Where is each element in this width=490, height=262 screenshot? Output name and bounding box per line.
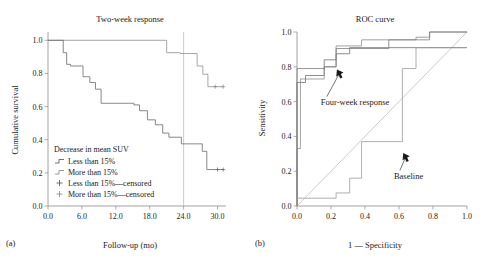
legend-item: Less than 15%—censored <box>57 179 152 188</box>
x-tick-label: 18.0 <box>143 212 157 221</box>
x-tick-label: 12.0 <box>109 212 123 221</box>
legend-item-label: Less than 15%—censored <box>68 179 152 188</box>
legend-step-marker <box>55 160 64 164</box>
annotation-label: Four-week response <box>321 97 390 107</box>
panel-b-plot-area: 0.00.20.40.60.81.00.00.20.40.60.81.0 <box>282 28 473 221</box>
panel-a-title: Two-week response <box>96 14 164 24</box>
x-tick-label: 0.8 <box>428 212 438 221</box>
legend-item-label: Less than 15% <box>68 157 115 166</box>
y-tick-label: 0.8 <box>282 63 292 72</box>
diagonal-reference-line <box>297 32 467 206</box>
y-tick-label: 0.6 <box>282 98 292 107</box>
legend-item: Less than 15% <box>55 157 115 166</box>
panel-b-xlabel: 1 — Specificity <box>348 240 403 250</box>
y-tick-label: 0.6 <box>33 103 43 112</box>
y-tick-label: 0.4 <box>33 136 43 145</box>
x-tick-label: 0.6 <box>394 212 404 221</box>
x-tick-label: 0.2 <box>326 212 336 221</box>
x-tick-label: 0.0 <box>292 212 302 221</box>
legend-item-label: More than 15% <box>68 168 118 177</box>
panel-b-roc-chart: ROC curve 0.00.20.40.60.81.00.00.20.40.6… <box>245 0 490 262</box>
y-tick-label: 1.0 <box>33 36 43 45</box>
panel-b-ylabel: Sensitivity <box>257 99 267 136</box>
annotation-leader-line <box>400 158 405 171</box>
annotation-arrowhead <box>403 153 410 162</box>
y-tick-label: 0.0 <box>282 202 292 211</box>
panel-a-ylabel: Cumulative survival <box>10 85 20 155</box>
annotation-label: Baseline <box>394 171 423 181</box>
x-tick-label: 0.0 <box>43 212 53 221</box>
roc-svg: ROC curve 0.00.20.40.60.81.00.00.20.40.6… <box>245 0 490 262</box>
x-tick-label: 24.0 <box>177 212 191 221</box>
y-tick-label: 0.2 <box>282 167 292 176</box>
panel-a-legend: Decrease in mean SUVLess than 15%More th… <box>54 145 154 199</box>
x-tick-label: 30.0 <box>211 212 225 221</box>
y-tick-label: 0.2 <box>33 169 43 178</box>
y-tick-label: 1.0 <box>282 28 292 37</box>
series-line <box>297 48 467 206</box>
x-tick-label: 0.4 <box>360 212 370 221</box>
legend-item: More than 15%—censored <box>57 190 155 199</box>
panel-a-survival-chart: Two-week response 0.06.012.018.024.030.0… <box>0 0 245 262</box>
series-line <box>297 48 467 206</box>
x-tick-label: 1.0 <box>462 212 472 221</box>
y-tick-label: 0.8 <box>33 69 43 78</box>
panel-a-xlabel: Follow-up (mo) <box>103 240 157 250</box>
legend-step-marker <box>55 171 64 175</box>
panel-b-annotations: Four-week responseBaseline <box>321 69 424 180</box>
panel-b-tag: (b) <box>255 238 265 248</box>
annotation-leader-line <box>327 74 339 96</box>
panel-b-title: ROC curve <box>356 14 395 24</box>
series-line <box>48 40 223 86</box>
figure-container: Two-week response 0.06.012.018.024.030.0… <box>0 0 490 262</box>
panel-a-tag: (a) <box>6 238 16 248</box>
legend-item-label: More than 15%—censored <box>68 190 154 199</box>
legend-title: Decrease in mean SUV <box>54 145 129 154</box>
legend-item: More than 15% <box>55 168 118 177</box>
survival-svg: Two-week response 0.06.012.018.024.030.0… <box>0 0 245 262</box>
x-tick-label: 6.0 <box>77 212 87 221</box>
y-tick-label: 0.4 <box>282 132 292 141</box>
y-tick-label: 0.0 <box>33 202 43 211</box>
